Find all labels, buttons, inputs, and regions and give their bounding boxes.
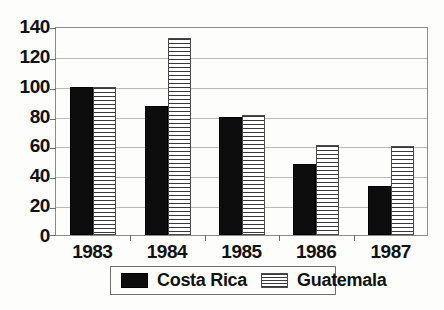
- y-axis-tick-label: 60: [2, 135, 50, 157]
- bar-costa-rica-1984: [145, 106, 168, 235]
- bar-guatemala-1983: [93, 87, 116, 235]
- bar-costa-rica-1986: [293, 164, 316, 235]
- chart-legend: Costa Rica Guatemala: [110, 266, 336, 295]
- bar-costa-rica-1985: [219, 117, 242, 235]
- y-axis-tick-label: 0: [2, 225, 50, 247]
- legend-swatch-costa-rica: [121, 273, 148, 288]
- bar-guatemala-1984: [168, 38, 191, 235]
- y-axis-tick-label: 40: [2, 165, 50, 187]
- legend-swatch-guatemala: [261, 273, 288, 288]
- bar-group-1984: [130, 28, 204, 235]
- bar-group-1986: [279, 28, 353, 235]
- legend-label-costa-rica: Costa Rica: [157, 270, 247, 291]
- x-axis-label-1983: 1983: [55, 241, 130, 267]
- y-axis-labels: 140 120 100 80 60 40 20 0: [0, 0, 50, 310]
- y-axis-tick-label: 80: [2, 106, 50, 128]
- bar-costa-rica-1987: [368, 186, 391, 235]
- legend-entry-guatemala: Guatemala: [261, 270, 400, 291]
- y-axis-tick-label: 100: [2, 76, 50, 98]
- bar-group-1985: [205, 28, 279, 235]
- bar-chart: 140 120 100 80 60 40 20 0: [0, 0, 444, 310]
- legend-label-guatemala: Guatemala: [297, 270, 386, 291]
- bar-group-1983: [56, 28, 130, 235]
- x-axis-label-1986: 1986: [279, 241, 354, 267]
- y-axis-tick-label: 20: [2, 195, 50, 217]
- bar-guatemala-1986: [316, 145, 339, 235]
- y-axis-tick-label: 140: [2, 16, 50, 38]
- legend-entry-costa-rica: Costa Rica: [121, 270, 261, 291]
- x-axis-label-1984: 1984: [130, 241, 205, 267]
- y-axis-tick-label: 120: [2, 46, 50, 68]
- bar-guatemala-1987: [391, 146, 414, 235]
- x-axis-label-1987: 1987: [353, 241, 428, 267]
- x-axis-label-1985: 1985: [204, 241, 279, 267]
- plot-area: [55, 27, 428, 236]
- x-axis-labels: 1983 1984 1985 1986 1987: [55, 241, 428, 267]
- bar-group-1987: [354, 28, 428, 235]
- bar-guatemala-1985: [242, 115, 265, 235]
- bar-costa-rica-1983: [70, 87, 93, 235]
